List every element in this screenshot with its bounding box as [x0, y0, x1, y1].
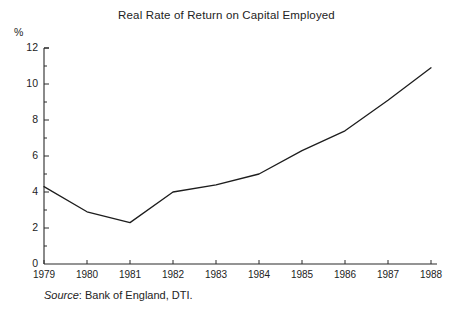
axis-ticks — [44, 48, 431, 264]
y-tick-label: 4 — [8, 186, 38, 197]
axes — [44, 48, 437, 264]
x-tick-label: 1987 — [365, 269, 411, 280]
chart-figure: Real Rate of Return on Capital Employed … — [0, 0, 453, 315]
source-note: Source: Bank of England, DTI. — [44, 289, 193, 301]
x-tick-label: 1979 — [21, 269, 67, 280]
x-tick-label: 1982 — [150, 269, 196, 280]
x-tick-label: 1983 — [193, 269, 239, 280]
y-tick-label: 0 — [8, 258, 38, 269]
plot-area — [0, 0, 453, 315]
x-tick-label: 1981 — [107, 269, 153, 280]
source-label: Source — [44, 289, 79, 301]
data-series — [44, 68, 431, 223]
y-tick-label: 6 — [8, 150, 38, 161]
y-tick-label: 12 — [8, 42, 38, 53]
source-value: : Bank of England, DTI. — [79, 289, 193, 301]
x-tick-label: 1988 — [408, 269, 453, 280]
x-tick-label: 1980 — [64, 269, 110, 280]
y-tick-label: 2 — [8, 222, 38, 233]
y-tick-label: 10 — [8, 78, 38, 89]
y-tick-label: 8 — [8, 114, 38, 125]
x-tick-label: 1984 — [236, 269, 282, 280]
x-tick-label: 1985 — [279, 269, 325, 280]
x-tick-label: 1986 — [322, 269, 368, 280]
